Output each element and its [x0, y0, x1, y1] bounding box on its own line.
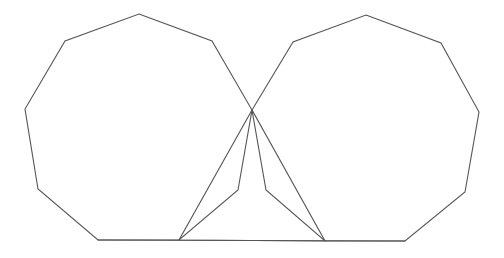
left-nonagon — [25, 14, 252, 240]
nonagons-diagram — [0, 0, 504, 258]
right-nonagon — [252, 15, 479, 241]
base-line — [98, 240, 405, 241]
diagram-canvas — [0, 0, 504, 258]
